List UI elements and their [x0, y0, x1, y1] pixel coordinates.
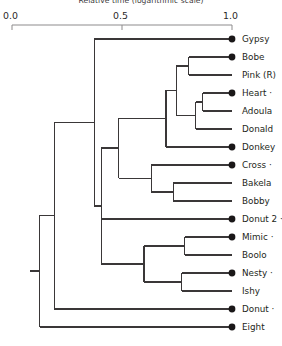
- leaf-trailing-dot: ·: [269, 304, 275, 314]
- leaf-label-text: Gypsy: [242, 34, 269, 44]
- leaf-marker-heart: [229, 90, 236, 97]
- leaf-label-text: Adoula: [242, 106, 272, 116]
- axis-tick-label-1-0: 1.0: [223, 10, 238, 21]
- leaf-label-nesty: Nesty ·: [242, 269, 273, 278]
- leaf-label-text: Nesty: [242, 268, 267, 278]
- leaf-marker-donut-2: [229, 216, 236, 223]
- leaf-label-gypsy: Gypsy: [242, 35, 269, 44]
- leaf-label-text: Donkey: [242, 142, 275, 152]
- leaf-label-donut-2: Donut 2 ·: [242, 215, 282, 224]
- leaf-label-bobe: Bobe: [242, 53, 264, 62]
- leaf-label-text: Pink (R): [242, 70, 276, 80]
- axis-tick-label-0-0: 0.0: [3, 10, 18, 21]
- axis-tick-label-0-5: 0.5: [113, 10, 128, 21]
- leaf-label-donkey: Donkey: [242, 143, 275, 152]
- leaf-label-mimic: Mimic ·: [242, 233, 273, 242]
- leaf-label-text: Mimic: [242, 232, 268, 242]
- leaf-marker-cross: [229, 162, 236, 169]
- leaf-marker-donut: [229, 306, 236, 313]
- leaf-label-eight: Eight: [242, 323, 265, 332]
- leaf-label-text: Bobby: [242, 196, 270, 206]
- leaf-trailing-dot: ·: [268, 232, 274, 242]
- leaf-label-text: Boolo: [242, 250, 267, 260]
- leaf-label-bobby: Bobby: [242, 197, 270, 206]
- leaf-label-text: Bobe: [242, 52, 264, 62]
- tree-plot-area: [0, 0, 282, 346]
- leaf-label-bakela: Bakela: [242, 179, 271, 188]
- leaf-label-ishy: Ishy: [242, 287, 260, 296]
- leaf-label-boolo: Boolo: [242, 251, 267, 260]
- leaf-label-donut: Donut ·: [242, 305, 274, 314]
- leaf-trailing-dot: ·: [266, 88, 272, 98]
- leaf-label-text: Donut 2: [242, 214, 277, 224]
- leaf-label-adoula: Adoula: [242, 107, 272, 116]
- leaf-label-text: Cross: [242, 160, 266, 170]
- leaf-label-heart: Heart ·: [242, 89, 272, 98]
- leaf-label-text: Heart: [242, 88, 266, 98]
- dendrogram-figure: Relative time (logarithmic scale) 0.00.5…: [0, 0, 282, 346]
- leaf-trailing-dot: ·: [277, 214, 282, 224]
- leaf-label-text: Eight: [242, 322, 265, 332]
- leaf-marker-nesty: [229, 270, 236, 277]
- leaf-marker-bobe: [229, 54, 236, 61]
- leaf-marker-eight: [229, 324, 236, 331]
- axis-group: [12, 25, 232, 30]
- leaf-label-donald: Donald: [242, 125, 273, 134]
- leaf-label-cross: Cross ·: [242, 161, 272, 170]
- leaf-marker-gypsy: [229, 36, 236, 43]
- leaf-label-text: Donald: [242, 124, 273, 134]
- tree-branches: [30, 39, 232, 327]
- leaf-marker-mimic: [229, 234, 236, 241]
- leaf-trailing-dot: ·: [267, 268, 273, 278]
- leaf-label-pink-r-: Pink (R): [242, 71, 276, 80]
- leaf-trailing-dot: ·: [266, 160, 272, 170]
- leaf-marker-donkey: [229, 144, 236, 151]
- leaf-label-text: Bakela: [242, 178, 271, 188]
- leaf-label-text: Ishy: [242, 286, 260, 296]
- leaf-label-text: Donut: [242, 304, 269, 314]
